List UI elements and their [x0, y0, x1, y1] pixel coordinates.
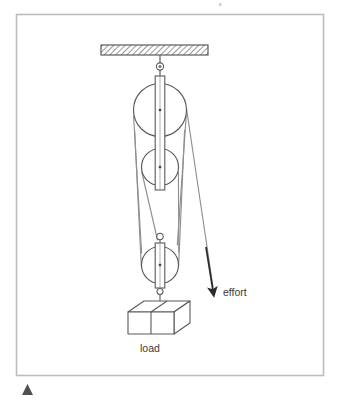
ceiling-beam: [101, 45, 208, 55]
page-background: [0, 0, 340, 408]
upper-block-strap: [155, 76, 165, 190]
load-box: [128, 301, 190, 334]
page-speck: [219, 3, 221, 6]
lower-block-strap: [155, 243, 165, 288]
effort-label: effort: [223, 286, 247, 298]
pulley-diagram-svg: effort load: [0, 0, 340, 408]
load-label: load: [140, 342, 160, 354]
bottom-pulley-axle: [159, 264, 161, 266]
middle-pulley-axle: [159, 166, 161, 168]
top-pulley-axle: [159, 109, 161, 111]
diagram-stage: effort load: [0, 0, 340, 408]
